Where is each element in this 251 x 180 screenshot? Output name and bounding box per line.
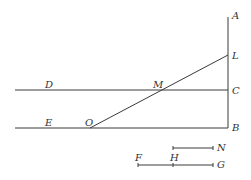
label-N: N: [216, 142, 227, 153]
label-E: E: [44, 117, 53, 128]
label-B: B: [231, 122, 239, 133]
geometry-diagram: A L C B D M E O N F H G: [0, 0, 251, 180]
label-F: F: [134, 152, 143, 163]
label-O: O: [85, 117, 93, 128]
label-D: D: [44, 79, 53, 90]
label-G: G: [217, 159, 225, 170]
label-C: C: [232, 85, 240, 96]
label-L: L: [231, 50, 239, 61]
label-H: H: [169, 152, 179, 163]
label-A: A: [231, 10, 239, 21]
line-OL: [90, 55, 228, 128]
label-M: M: [152, 79, 164, 90]
